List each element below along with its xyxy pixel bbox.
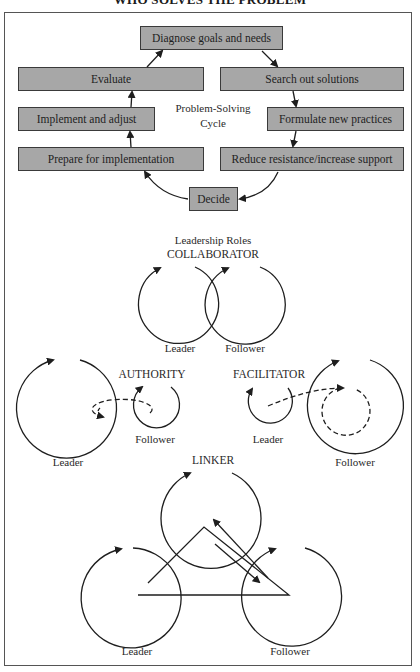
collaborator-follower-circle	[205, 267, 285, 344]
arrow-implement-to-evaluate	[131, 92, 132, 107]
linker-triangle	[138, 527, 289, 595]
authority-leader-circle	[16, 360, 116, 458]
arrow-reduce-to-decide	[240, 172, 278, 199]
facilitator-follower-inner-dashed	[322, 388, 370, 435]
arrow-search-to-formulate	[293, 91, 296, 106]
arrow-formulate-to-reduce	[293, 131, 296, 146]
authority-dashed-loop	[92, 399, 152, 417]
linker-follower-circle	[242, 548, 342, 646]
arrow-diagnose-to-search	[262, 51, 277, 66]
arrow-prepare-to-implement	[130, 132, 131, 147]
authority-follower-circle	[134, 387, 180, 428]
arrow-evaluate-to-diagnose	[147, 51, 162, 67]
facilitator-dashed-influence	[268, 388, 343, 406]
linker-leader-circle	[81, 548, 181, 648]
linker-arrow-down	[215, 544, 259, 582]
arrow-decide-to-prepare	[145, 172, 188, 199]
diagram-drawing	[0, 0, 420, 672]
collaborator-leader-circle	[139, 267, 219, 343]
